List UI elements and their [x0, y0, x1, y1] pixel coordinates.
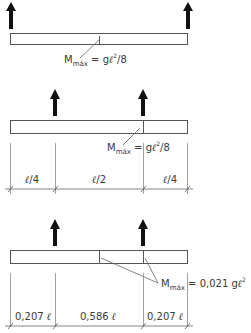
dimension-fraction: /4	[29, 174, 39, 185]
support-arrow-icon	[138, 219, 148, 246]
support-arrow-icon	[50, 89, 60, 116]
dimension-fraction: /4	[167, 174, 177, 185]
dimension-label: ℓ/2	[92, 174, 106, 185]
moment-symbol: M	[107, 142, 116, 153]
support-arrow-icon	[183, 2, 193, 29]
support-arrow-icon	[138, 89, 148, 116]
span-symbol: ℓ	[112, 311, 116, 322]
exponent: 2	[242, 276, 246, 283]
moment-subscript: máx	[73, 60, 88, 68]
moment-equals: = g	[131, 142, 152, 153]
moment-equals: = 0,021 g	[185, 278, 238, 289]
dimension-label: ℓ/4	[25, 174, 39, 185]
moment-symbol: M	[64, 54, 73, 65]
moment-subscript: máx	[170, 284, 185, 292]
moment-subscript: máx	[116, 148, 131, 156]
moment-equals: = g	[88, 54, 109, 65]
dimension-label: ℓ/4	[163, 174, 177, 185]
moment-label-2: Mmáx = gℓ2/8	[107, 140, 170, 156]
dimension-label: 0,207 ℓ	[15, 311, 51, 322]
moment-label-1: Mmáx = gℓ2/8	[64, 52, 127, 68]
moment-label-3: Mmáx = 0,021 gℓ2	[161, 276, 246, 292]
diagram-1	[6, 2, 193, 58]
dimension-fraction: /2	[96, 174, 106, 185]
dimension-coefficient: 0,586	[80, 311, 112, 322]
dimension-label: 0,207 ℓ	[147, 311, 183, 322]
moment-divisor: /8	[117, 54, 127, 65]
support-arrow-icon	[50, 219, 60, 246]
dimension-coefficient: 0,207	[15, 311, 47, 322]
span-symbol: ℓ	[179, 311, 183, 322]
dimension-coefficient: 0,207	[147, 311, 179, 322]
moment-divisor: /8	[160, 142, 170, 153]
support-arrow-icon	[6, 2, 16, 29]
beam-2	[11, 121, 188, 134]
dimension-label: 0,586 ℓ	[80, 311, 116, 322]
moment-symbol: M	[161, 278, 170, 289]
span-symbol: ℓ	[47, 311, 51, 322]
